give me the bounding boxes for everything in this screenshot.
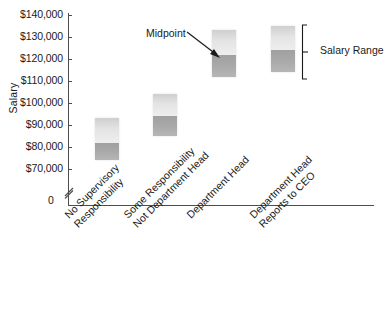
x-axis-tick-label: No SupervisoryResponsibility [62,161,130,229]
salary-range-bracket-icon [301,24,317,80]
x-axis-tick-label: Department HeadReports to CEO [247,153,323,229]
midpoint-arrow-icon [186,30,226,62]
midpoint-annotation-label: Midpoint [146,27,186,39]
salary-range-annotation-label: Salary Range [320,44,384,56]
